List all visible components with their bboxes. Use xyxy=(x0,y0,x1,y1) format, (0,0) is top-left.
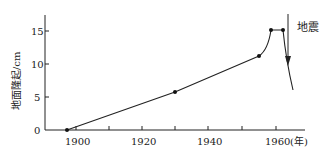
data-point xyxy=(173,90,177,94)
data-point xyxy=(269,28,273,32)
data-point xyxy=(257,54,261,58)
data-point xyxy=(65,128,69,132)
y-tick-15: 15 xyxy=(31,26,44,37)
data-point xyxy=(281,28,285,32)
y-tick-5: 5 xyxy=(34,92,40,103)
x-tick-1940: 1940 xyxy=(197,136,222,147)
uplift-chart: 15 10 5 0 1900 1920 1940 1960 (年) 地面隆起/c… xyxy=(0,0,328,161)
y-axis-label: 地面隆起/cm xyxy=(10,51,22,110)
y-tick-0: 0 xyxy=(34,125,40,136)
x-tick-1900: 1900 xyxy=(65,136,90,147)
y-tick-10: 10 xyxy=(31,59,44,70)
x-tick-1960: 1960 xyxy=(265,136,290,147)
arrow-head-icon xyxy=(285,56,291,66)
x-tick-1920: 1920 xyxy=(131,136,156,147)
x-unit-label: (年) xyxy=(290,135,308,147)
uplift-line xyxy=(67,30,293,130)
earthquake-label: 地震 xyxy=(297,21,319,34)
